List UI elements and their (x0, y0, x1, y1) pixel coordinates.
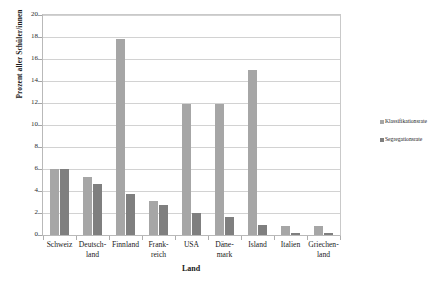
x-category-label: Schweiz (43, 240, 76, 250)
y-tick-label: 14 (20, 76, 38, 84)
y-tick-mark (38, 235, 42, 236)
x-category-label-line: reich (151, 250, 166, 259)
bar-segregationsrate (258, 225, 267, 235)
x-category-label-line: land (86, 250, 99, 259)
bar-segregationsrate (225, 217, 234, 235)
bar-segregationsrate (324, 233, 333, 235)
x-category-label-line: Deutsch- (79, 240, 106, 249)
y-tick-mark (38, 169, 42, 170)
x-tick-mark (340, 236, 341, 240)
bar-klassifikationsrate (248, 70, 257, 235)
y-tick-mark (38, 191, 42, 192)
x-category-label: Frank-reich (142, 240, 175, 259)
bar-segregationsrate (192, 213, 201, 235)
x-category-label: Däne-mark (208, 240, 241, 259)
y-tick-mark (38, 125, 42, 126)
bar-klassifikationsrate (215, 104, 224, 235)
y-tick-mark (38, 15, 42, 16)
bar-group (83, 15, 102, 235)
bar-group (50, 15, 69, 235)
y-tick-label: 4 (20, 186, 38, 194)
bar-segregationsrate (93, 184, 102, 235)
x-category-label-line: USA (184, 240, 199, 249)
x-axis-title: Land (0, 264, 382, 273)
bar-klassifikationsrate (182, 104, 191, 235)
legend-swatch (380, 138, 384, 142)
bar-group (215, 15, 234, 235)
y-tick-label: 6 (20, 164, 38, 172)
y-tick-label: 18 (20, 32, 38, 40)
y-tick-mark (38, 37, 42, 38)
legend-label: Segregationsrate (385, 135, 422, 144)
x-category-label: Finnland (109, 240, 142, 250)
y-tick-label: 10 (20, 120, 38, 128)
bar-segregationsrate (126, 194, 135, 235)
bar-klassifikationsrate (149, 201, 158, 235)
bars-layer (43, 15, 340, 235)
bar-segregationsrate (60, 169, 69, 235)
y-tick-label: 20 (20, 10, 38, 18)
y-tick-label: 16 (20, 54, 38, 62)
y-tick-label: 8 (20, 142, 38, 150)
y-tick-mark (38, 59, 42, 60)
x-category-label-line: Schweiz (47, 240, 73, 249)
bar-group (314, 15, 333, 235)
x-category-label-line: Griechen- (308, 240, 338, 249)
y-tick-mark (38, 213, 42, 214)
legend-swatch (380, 120, 384, 124)
legend-item: Segregationsrate (380, 135, 440, 153)
bar-segregationsrate (159, 205, 168, 235)
x-category-label-line: mark (217, 250, 233, 259)
legend-item: Klassifikationsrate (380, 117, 440, 135)
x-category-label: Griechen-land (307, 240, 340, 259)
chart-legend: KlassifikationsrateSegregationsrate (380, 117, 440, 153)
legend-label: Klassifikationsrate (385, 117, 427, 126)
y-axis-tick-labels: 20181614121086420 (18, 14, 38, 236)
x-category-label: Deutsch-land (76, 240, 109, 259)
bar-group (116, 15, 135, 235)
x-category-label-line: Frank- (148, 240, 168, 249)
bar-segregationsrate (291, 233, 300, 235)
x-category-label-line: Italien (281, 240, 300, 249)
x-category-label-line: Island (248, 240, 267, 249)
bar-group (182, 15, 201, 235)
bar-group (149, 15, 168, 235)
x-category-label: USA (175, 240, 208, 250)
bar-klassifikationsrate (83, 177, 92, 235)
y-tick-mark (38, 147, 42, 148)
x-category-label-line: Däne- (215, 240, 234, 249)
bar-group (281, 15, 300, 235)
y-tick-label: 12 (20, 98, 38, 106)
x-category-label-line: land (317, 250, 330, 259)
bar-klassifikationsrate (314, 226, 323, 235)
y-tick-mark (38, 81, 42, 82)
x-category-label: Island (241, 240, 274, 250)
x-category-label: Italien (274, 240, 307, 250)
bar-chart: Prozent aller Schüler/innen 201816141210… (0, 0, 440, 288)
bar-klassifikationsrate (50, 169, 59, 235)
bar-klassifikationsrate (116, 39, 125, 235)
y-tick-label: 2 (20, 208, 38, 216)
y-tick-mark (38, 103, 42, 104)
bar-klassifikationsrate (281, 226, 290, 235)
y-tick-label: 0 (20, 230, 38, 238)
x-category-label-line: Finnland (112, 240, 139, 249)
bar-group (248, 15, 267, 235)
